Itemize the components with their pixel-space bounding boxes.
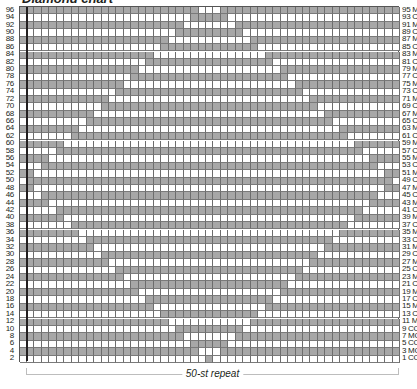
stitch-cell [184,22,191,29]
stitch-cell [348,252,355,259]
stitch-cell [176,111,183,118]
row-color-label: 47 MC [402,184,417,192]
stitch-cell [116,348,123,355]
stitch-cell [385,200,392,207]
stitch-cell [378,155,385,162]
stitch-cell [325,267,332,274]
stitch-cell [303,163,310,170]
stitch-cell [251,296,258,303]
stitch-cell [228,222,235,229]
stitch-cell [124,37,131,44]
stitch-cell [191,52,198,59]
stitch-cell [87,311,94,318]
stitch-cell [139,356,146,363]
row-number-label: 20 [6,288,14,296]
stitch-cell [87,296,94,303]
stitch-cell [146,111,153,118]
stitch-cell [124,267,131,274]
stitch-cell [184,267,191,274]
stitch-cell [385,230,392,237]
stitch-cell [64,155,71,162]
stitch-cell [325,311,332,318]
stitch-cell [221,222,228,229]
stitch-cell [296,44,303,51]
stitch-cell [131,59,138,66]
stitch-cell [64,37,71,44]
stitch-cell [57,118,64,125]
stitch-cell [27,103,34,110]
row-color-label: 91 MC [402,21,417,29]
stitch-cell [310,96,317,103]
stitch-cell [199,252,206,259]
stitch-cell [184,304,191,311]
row-color-label: 37 CC [402,221,417,229]
stitch-cell [146,141,153,148]
stitch-cell [288,118,295,125]
stitch-cell [102,259,109,266]
stitch-cell [42,237,49,244]
stitch-cell [273,111,280,118]
stitch-cell [378,141,385,148]
stitch-cell [340,259,347,266]
stitch-cell [34,178,41,185]
row-color-label: 13 CC [402,310,417,318]
stitch-cell [370,118,377,125]
stitch-cell [266,103,273,110]
stitch-cell [184,311,191,318]
stitch-cell [221,89,228,96]
stitch-cell [355,163,362,170]
stitch-cell [94,103,101,110]
row-color-label: 61 CC [402,132,417,140]
stitch-cell [296,304,303,311]
stitch-cell [266,348,273,355]
row-number-label: 6 [10,339,14,347]
stitch-cell [154,200,161,207]
stitch-cell [184,222,191,229]
stitch-cell [228,29,235,36]
stitch-cell [236,66,243,73]
stitch-cell [64,185,71,192]
stitch-cell [124,333,131,340]
stitch-cell [184,118,191,125]
stitch-cell [348,81,355,88]
stitch-cell [266,133,273,140]
stitch-cell [228,281,235,288]
stitch-cell [109,133,116,140]
stitch-cell [213,96,220,103]
stitch-cell [221,81,228,88]
stitch-cell [393,222,400,229]
stitch-cell [57,185,64,192]
stitch-cell [64,348,71,355]
stitch-cell [72,348,79,355]
stitch-cell [318,111,325,118]
stitch-cell [27,259,34,266]
left-row-labels: 2468101214161820222426283032343638404244… [0,6,16,362]
stitch-cell [64,333,71,340]
stitch-cell [27,141,34,148]
stitch-cell [206,304,213,311]
stitch-cell [318,333,325,340]
stitch-cell [64,207,71,214]
stitch-cell [42,148,49,155]
row-number-label: 84 [6,50,14,58]
stitch-cell [169,296,176,303]
stitch-cell [49,244,56,251]
stitch-cell [49,133,56,140]
stitch-cell [49,333,56,340]
stitch-cell [191,230,198,237]
stitch-cell [116,244,123,251]
stitch-cell [87,141,94,148]
stitch-cell [355,22,362,29]
stitch-cell [378,326,385,333]
stitch-cell [378,22,385,29]
stitch-cell [131,155,138,162]
stitch-cell [146,96,153,103]
stitch-cell [109,163,116,170]
stitch-cell [139,200,146,207]
stitch-cell [64,356,71,363]
stitch-cell [79,207,86,214]
stitch-cell [57,207,64,214]
stitch-cell [79,222,86,229]
stitch-cell [310,356,317,363]
stitch-cell [42,289,49,296]
